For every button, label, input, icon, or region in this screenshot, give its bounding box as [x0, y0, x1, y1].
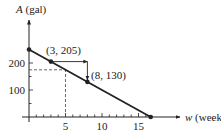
y-axis-ticks — [29, 63, 33, 104]
y-tick-label-100: 100 — [9, 84, 26, 96]
y-tick-label-200: 200 — [9, 57, 26, 69]
dashed-guide-lines — [29, 70, 66, 117]
data-line — [29, 50, 151, 118]
chart-canvas: 200 100 5 10 15 A (gal) w (weeks) (3, 20… — [0, 0, 221, 140]
point-3-205 — [49, 59, 54, 64]
point-end — [148, 115, 153, 120]
x-axis-unit: (weeks) — [192, 111, 221, 124]
point-label-3-205: (3, 205) — [46, 44, 81, 57]
point-8-130 — [85, 80, 90, 85]
x-tick-label-10: 10 — [97, 120, 109, 132]
y-axis-unit: (gal) — [23, 3, 47, 16]
y-axis-label: A (gal) — [15, 3, 47, 16]
point-label-8-130: (8, 130) — [91, 69, 126, 82]
x-tick-label-5: 5 — [63, 120, 69, 132]
x-axis-ticks — [36, 113, 146, 117]
point-start — [27, 47, 32, 52]
x-tick-label-15: 15 — [133, 120, 145, 132]
x-axis-label: w (weeks) — [185, 111, 221, 124]
